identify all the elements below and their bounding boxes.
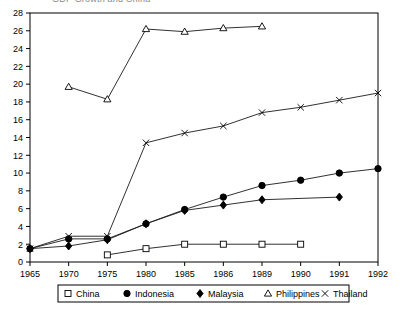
x-tick-label: 1975	[97, 269, 117, 279]
legend-label-china: China	[76, 289, 100, 299]
data-point-china	[182, 241, 188, 247]
data-point-thailand	[143, 140, 149, 146]
data-point-indonesia	[336, 170, 342, 176]
y-tick-label: 12	[13, 151, 23, 161]
data-point-indonesia	[375, 165, 381, 171]
data-point-china	[220, 241, 226, 247]
data-point-china	[143, 246, 149, 252]
data-point-indonesia	[259, 182, 265, 188]
chart-legend: ChinaIndonesiaMalaysiaPhilippinesThailan…	[58, 285, 368, 302]
data-point-malaysia	[259, 196, 265, 204]
y-tick-label: 20	[13, 79, 23, 89]
line-chart: 0246810121416182022242628196519701975198…	[0, 0, 408, 309]
y-tick-label: 0	[18, 257, 23, 267]
legend-label-malaysia: Malaysia	[208, 289, 244, 299]
legend-marker-indonesia	[124, 290, 130, 296]
data-point-china	[104, 252, 110, 258]
y-tick-label: 2	[18, 240, 23, 250]
plot-frame	[30, 13, 378, 262]
y-tick-label: 22	[13, 62, 23, 72]
data-point-china	[298, 241, 304, 247]
series-philippines	[65, 23, 266, 102]
series-line-philippines	[69, 26, 262, 99]
y-tick-label: 26	[13, 26, 23, 36]
y-tick-label: 8	[18, 186, 23, 196]
series-china	[104, 241, 303, 258]
data-point-philippines	[65, 83, 72, 89]
data-point-malaysia	[220, 201, 226, 209]
y-tick-label: 28	[13, 8, 23, 18]
series-line-thailand	[30, 93, 378, 249]
x-tick-label: 1965	[20, 269, 40, 279]
y-tick-label: 10	[13, 168, 23, 178]
x-tick-label: 1980	[136, 269, 156, 279]
series-thailand	[27, 90, 381, 252]
chart-figure: GDP Growth and China 0246810121416182022…	[0, 0, 408, 309]
data-point-philippines	[258, 23, 265, 29]
clipped-chart-title: GDP Growth and China	[52, 0, 150, 4]
y-tick-label: 24	[13, 44, 23, 54]
y-tick-label: 4	[18, 222, 23, 232]
x-tick-label: 1991	[329, 269, 349, 279]
x-tick-label: 1990	[291, 269, 311, 279]
legend-label-indonesia: Indonesia	[135, 289, 174, 299]
x-tick-label: 1992	[368, 269, 388, 279]
legend-label-philippines: Philippines	[276, 289, 320, 299]
legend-label-thailand: Thailand	[333, 289, 368, 299]
data-point-philippines	[142, 25, 149, 31]
data-point-indonesia	[297, 177, 303, 183]
data-point-malaysia	[66, 242, 72, 250]
series-line-china	[107, 244, 300, 255]
data-point-indonesia	[220, 194, 226, 200]
x-tick-label: 1989	[252, 269, 272, 279]
y-tick-label: 16	[13, 115, 23, 125]
legend-marker-china	[65, 291, 71, 297]
data-point-china	[259, 241, 265, 247]
y-tick-label: 6	[18, 204, 23, 214]
x-tick-label: 1970	[59, 269, 79, 279]
series-indonesia	[27, 165, 381, 251]
x-tick-label: 1986	[213, 269, 233, 279]
y-tick-label: 18	[13, 97, 23, 107]
x-tick-label: 1985	[175, 269, 195, 279]
data-point-malaysia	[336, 193, 342, 201]
y-tick-label: 14	[13, 133, 23, 143]
